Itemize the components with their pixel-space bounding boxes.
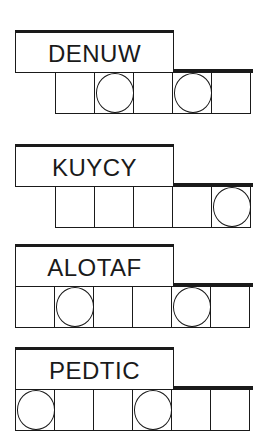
answer-cell[interactable]	[16, 287, 55, 327]
word-puzzle-1: DENUW	[0, 30, 272, 130]
word-puzzle-3: ALOTAF	[0, 244, 272, 344]
answer-cell[interactable]	[134, 73, 173, 113]
answer-cell[interactable]	[134, 187, 173, 227]
scrambled-word-box: DENUW	[15, 30, 174, 73]
answer-cell[interactable]	[55, 390, 94, 430]
answer-cell-circled[interactable]	[173, 73, 212, 113]
answer-cell[interactable]	[56, 187, 95, 227]
answer-cell-circled[interactable]	[133, 390, 172, 430]
answer-cell-circled[interactable]	[95, 73, 134, 113]
answer-cell[interactable]	[211, 390, 250, 430]
answer-cell[interactable]	[94, 390, 133, 430]
scrambled-word-box: PEDTIC	[15, 347, 174, 390]
answer-cells	[15, 287, 250, 328]
scrambled-word-box: ALOTAF	[15, 244, 174, 287]
answer-cell[interactable]	[212, 73, 251, 113]
answer-cells	[55, 187, 251, 228]
answer-cell[interactable]	[173, 187, 212, 227]
word-puzzle-2: KUYCY	[0, 144, 272, 244]
answer-cell[interactable]	[133, 287, 172, 327]
scrambled-word: ALOTAF	[47, 256, 142, 280]
answer-cell[interactable]	[56, 73, 95, 113]
answer-cell-circled[interactable]	[55, 287, 94, 327]
answer-cell[interactable]	[172, 390, 211, 430]
scrambled-word: DENUW	[48, 42, 141, 66]
answer-cell[interactable]	[211, 287, 250, 327]
answer-cells	[15, 390, 250, 431]
answer-cells	[55, 73, 251, 114]
scrambled-word: PEDTIC	[49, 359, 140, 383]
answer-cell-circled[interactable]	[212, 187, 251, 227]
answer-cell[interactable]	[94, 287, 133, 327]
word-puzzle-4: PEDTIC	[0, 347, 272, 440]
answer-cell-circled[interactable]	[16, 390, 55, 430]
answer-cell[interactable]	[95, 187, 134, 227]
answer-cell-circled[interactable]	[172, 287, 211, 327]
scrambled-word-box: KUYCY	[15, 144, 174, 187]
scrambled-word: KUYCY	[52, 156, 137, 180]
